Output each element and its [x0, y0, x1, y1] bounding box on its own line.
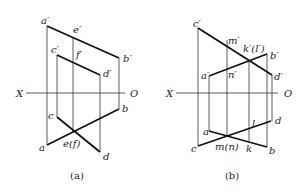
point-label: d	[275, 115, 281, 126]
axis-label-x: X	[165, 88, 174, 99]
axis-label-x: X	[15, 88, 24, 99]
line-a-b	[47, 109, 119, 145]
point-label: d′	[274, 71, 283, 82]
point-label: f′	[75, 49, 83, 60]
point-label: n′	[228, 69, 237, 80]
axis-label-o: O	[130, 88, 138, 99]
line-a-prime-b-prime	[209, 54, 267, 76]
point-label: k	[246, 143, 252, 154]
point-label: c	[48, 110, 54, 121]
point-label: a′	[41, 15, 50, 26]
point-label: k′(l′)	[243, 43, 265, 54]
point-label: m′	[228, 35, 240, 46]
point-label: a	[203, 126, 209, 137]
caption-b: (b)	[225, 170, 239, 181]
axis-label-o: O	[284, 88, 292, 99]
point-label: d	[103, 151, 109, 162]
point-label: l	[252, 118, 255, 129]
point-label: m(n)	[215, 141, 239, 152]
point-label: a	[39, 142, 45, 153]
point-label: c	[191, 143, 197, 154]
panel-b: XOc′m′k′(l′)b′a′n′d′ldacm(n)kb	[165, 18, 292, 156]
caption-a: (a)	[70, 170, 84, 181]
projection-diagram: XOa′e′b′c′f′d′cbae(f)d XOc′m′k′(l′)b′a′n…	[0, 0, 303, 194]
point-label: c′	[51, 44, 60, 55]
point-label: b′	[123, 53, 132, 64]
point-label: a′	[201, 70, 210, 81]
point-label: c′	[193, 18, 202, 29]
point-label: b′	[270, 50, 279, 61]
captions: (a) (b)	[70, 170, 239, 181]
panel-a: XOa′e′b′c′f′d′cbae(f)d	[15, 15, 138, 162]
point-label: e′	[73, 24, 82, 35]
point-label: d′	[103, 68, 112, 79]
point-label: b	[269, 145, 275, 156]
point-label: b	[122, 103, 128, 114]
point-label: e(f)	[63, 138, 81, 149]
